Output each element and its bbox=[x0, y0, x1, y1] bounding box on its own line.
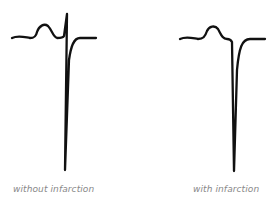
ecg-waveforms bbox=[0, 0, 277, 197]
ecg-trace-with-infarction bbox=[180, 27, 265, 171]
label-without-infarction: without infarction bbox=[13, 184, 94, 194]
label-with-infarction: with infarction bbox=[193, 184, 259, 194]
ecg-trace-without-infarction bbox=[12, 14, 96, 170]
